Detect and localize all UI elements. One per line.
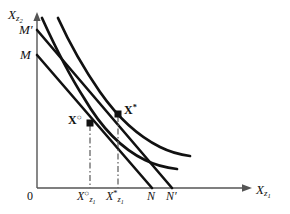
- y-axis-arrowhead: [33, 12, 40, 21]
- m-prime-label: M′: [19, 23, 33, 36]
- diagram-canvas: [0, 0, 290, 214]
- tick-label-x-star: X*z1: [106, 190, 124, 205]
- indifference-curve-figure: Xz2 Xz1 0 M′ M N N′ X○ X* X○z1 X*z1: [0, 0, 290, 214]
- x-axis-label: Xz1: [256, 183, 271, 200]
- point-label-x-star: X*: [124, 104, 137, 116]
- origin-label: 0: [27, 190, 33, 202]
- marker-x-naught: [87, 120, 94, 127]
- point-label-x-naught: X○: [68, 114, 82, 126]
- n-prime-label: N′: [166, 190, 177, 202]
- x-axis-arrowhead: [242, 184, 252, 192]
- budget-line-MN: [37, 55, 152, 188]
- tick-label-x-naught: X○z1: [77, 190, 96, 205]
- m-label: M: [20, 48, 31, 61]
- marker-x-star: [115, 111, 122, 118]
- n-label: N: [147, 190, 155, 202]
- axes-group: [33, 12, 252, 192]
